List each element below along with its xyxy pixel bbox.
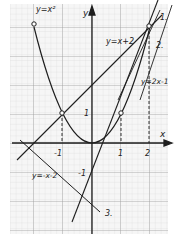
label-line-a: y=x+2 <box>105 37 134 46</box>
y-axis-label: y <box>82 8 89 18</box>
tick-y-neg1: -1 <box>78 169 86 178</box>
graph-figure: x y -1 1 2 1 -1 y=x² y=x+2 y=2x-1 y=-x-2… <box>0 0 179 242</box>
point-2-4 <box>147 24 151 28</box>
marker-1: 1. <box>160 13 168 22</box>
label-parabola: y=x² <box>35 5 56 14</box>
tick-x-1: 1 <box>118 149 123 158</box>
tick-x-2: 2 <box>145 149 150 158</box>
x-axis-arrow-icon <box>164 140 172 146</box>
label-line-c: y=-x-2 <box>31 171 58 180</box>
tick-y-1: 1 <box>84 109 89 118</box>
point-1-1 <box>119 111 123 115</box>
x-axis-label: x <box>159 129 166 139</box>
label-line-b: y=2x-1 <box>140 77 168 86</box>
marker-3: 3. <box>105 209 113 218</box>
point-neg1-1 <box>60 111 64 115</box>
marker-2: 2. <box>156 41 164 50</box>
grid <box>10 4 168 234</box>
tick-x-neg1: -1 <box>54 149 62 158</box>
point-neg2-4 <box>32 22 36 26</box>
